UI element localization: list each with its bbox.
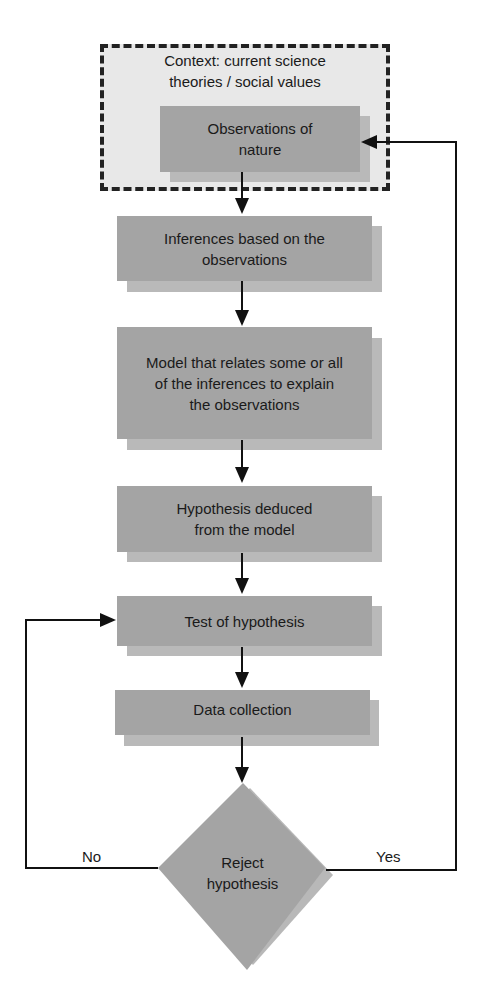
arrow-hypothesis-test xyxy=(241,553,243,579)
node-test: Test of hypothesis xyxy=(117,596,372,646)
node-model: Model that relates some or all of the in… xyxy=(117,327,372,439)
arrow-test-data xyxy=(241,647,243,673)
yes-branch-line xyxy=(326,869,457,871)
arrow-obs-inferences xyxy=(241,172,243,200)
decision-label: Reject hypothesis xyxy=(170,852,315,894)
arrow-data-decision xyxy=(241,737,243,771)
no-branch-vertical xyxy=(25,619,27,869)
no-label: No xyxy=(82,848,101,865)
arrowhead-icon xyxy=(235,672,249,688)
context-label: Context: current science theories / soci… xyxy=(100,50,390,92)
no-branch-line xyxy=(25,867,158,869)
arrowhead-icon xyxy=(235,467,249,483)
yes-label: Yes xyxy=(376,848,400,865)
arrowhead-icon xyxy=(235,310,249,326)
arrow-inferences-model xyxy=(241,281,243,311)
arrowhead-icon xyxy=(361,135,377,149)
node-data-collection: Data collection xyxy=(115,690,370,735)
arrowhead-icon xyxy=(235,578,249,594)
yes-branch-top xyxy=(375,141,457,143)
node-hypothesis: Hypothesis deduced from the model xyxy=(117,486,372,552)
arrowhead-icon xyxy=(235,198,249,214)
yes-branch-vertical xyxy=(455,141,457,871)
arrowhead-icon xyxy=(100,613,116,627)
no-branch-top xyxy=(25,619,101,621)
arrow-model-hypothesis xyxy=(241,440,243,468)
node-inferences: Inferences based on the observations xyxy=(117,216,372,281)
node-observations: Observations of nature xyxy=(160,106,360,172)
